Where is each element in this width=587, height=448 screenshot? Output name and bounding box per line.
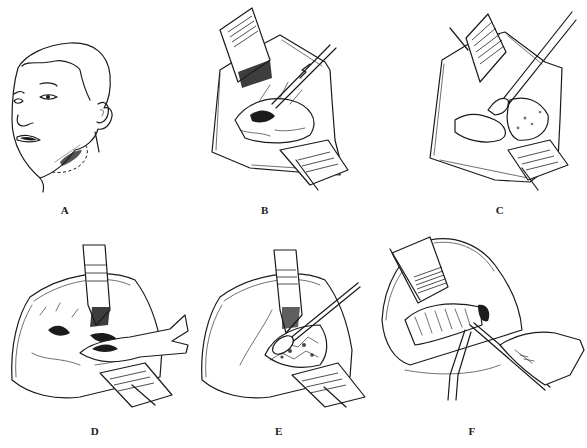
panel-label-a: A [61,204,69,216]
panel-label-e: E [275,425,283,437]
panel-label-b: B [261,204,269,216]
panel-e: E [190,225,380,448]
panel-label-d: D [91,425,99,437]
patient-head-illustration [0,0,190,225]
panel-a: A [0,0,190,225]
wound-dissection-illustration [400,0,587,225]
wound-drain-placement-illustration [370,225,587,448]
wound-clamp-illustration [0,225,200,448]
panel-b: B [190,0,400,225]
wound-with-forceps-illustration [190,0,400,225]
panel-f: F [370,225,587,448]
wound-swab-illustration [190,225,380,448]
panel-label-f: F [468,425,475,437]
panel-c: C [400,0,587,225]
panel-label-c: C [496,204,504,216]
panel-d: D [0,225,200,448]
